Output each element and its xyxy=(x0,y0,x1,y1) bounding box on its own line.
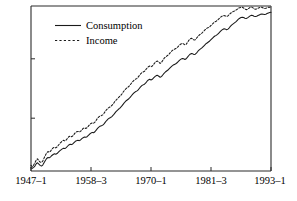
x-axis-ticks xyxy=(31,167,271,171)
series-line-income xyxy=(31,7,271,167)
x-tick-label-0: 1947–1 xyxy=(15,175,47,186)
x-tick-label-4: 1993–1 xyxy=(254,175,286,186)
series-line-consumption xyxy=(31,12,271,168)
data-series-group xyxy=(31,7,271,168)
line-chart-canvas xyxy=(0,0,297,201)
y-axis-ticks xyxy=(31,59,35,118)
x-tick-label-2: 1970–1 xyxy=(135,175,167,186)
legend-label-consumption: Consumption xyxy=(86,20,143,31)
x-tick-label-3: 1981–3 xyxy=(195,175,227,186)
legend-label-income: Income xyxy=(86,35,118,46)
x-tick-label-1: 1958–3 xyxy=(75,175,107,186)
chart-figure: Consumption Income 1947–1 1958–3 1970–1 … xyxy=(0,0,297,201)
legend-line-samples xyxy=(55,26,81,41)
